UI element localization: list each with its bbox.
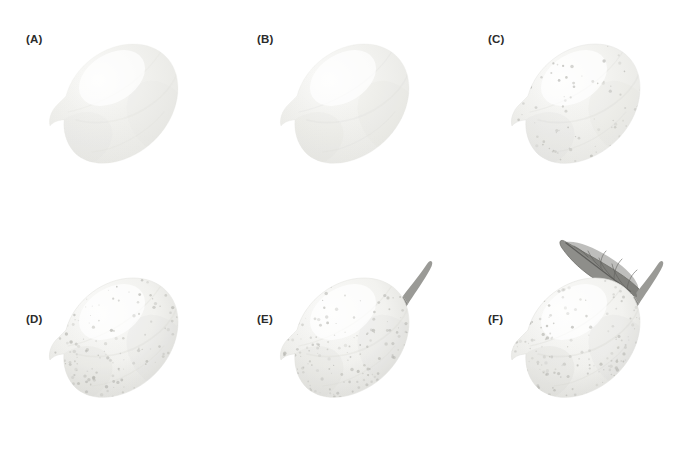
lemon-illustration-d: [0, 234, 231, 468]
panel-d: (D): [0, 234, 231, 468]
panel-label-a: (A): [26, 34, 43, 46]
panel-label-f: (F): [488, 314, 503, 326]
tutorial-sheet: (A)(B)(C)(D)(E)(F): [0, 0, 694, 468]
panel-label-b: (B): [257, 34, 274, 46]
lemon-illustration-e: [231, 234, 462, 468]
lemon-illustration-f: [462, 234, 693, 468]
panel-a: (A): [0, 0, 231, 234]
lemon-body: [0, 234, 231, 468]
panel-label-e: (E): [257, 314, 273, 326]
panel-label-d: (D): [26, 314, 43, 326]
panel-c: (C): [462, 0, 693, 234]
panel-b: (B): [231, 0, 462, 234]
panel-f: (F): [462, 234, 693, 468]
panel-label-c: (C): [488, 34, 505, 46]
panel-e: (E): [231, 234, 462, 468]
